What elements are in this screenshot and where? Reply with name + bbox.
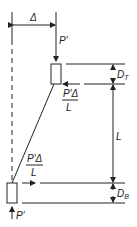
top-load-arrow: P′: [56, 30, 69, 61]
db-dimension: DB: [113, 184, 129, 202]
delta-label: Δ: [29, 12, 37, 23]
bottom-load-label: P′: [16, 210, 26, 221]
bottom-load-arrow: P′: [12, 207, 26, 221]
db-label: DB: [117, 188, 129, 200]
bottom-shear-arrow: P′Δ L: [22, 153, 43, 183]
top-load-label: P′: [59, 35, 69, 46]
top-shear-arrow: P′Δ L: [62, 84, 80, 113]
dt-dimension: DT: [113, 65, 129, 83]
dt-label: DT: [117, 69, 129, 81]
top-shear-denominator: L: [66, 102, 72, 113]
l-dimension: L: [113, 85, 122, 182]
p-delta-diagram: Δ P′ P′Δ L P′Δ L P′ DT: [0, 0, 137, 227]
bottom-column-block: [7, 183, 17, 203]
bottom-shear-numerator: P′Δ: [27, 153, 43, 164]
bottom-shear-denominator: L: [31, 167, 37, 178]
top-column-block: [51, 64, 61, 84]
top-shear-numerator: P′Δ: [63, 88, 79, 99]
l-label: L: [116, 131, 122, 142]
delta-dimension: Δ: [13, 12, 55, 25]
